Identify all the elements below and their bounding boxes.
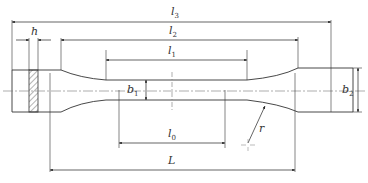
label-l0: l0 bbox=[168, 128, 176, 142]
label-r: r bbox=[259, 123, 264, 134]
label-l2: l2 bbox=[169, 25, 177, 39]
label-L: L bbox=[168, 155, 175, 166]
specimen-drawing bbox=[0, 0, 368, 183]
label-l1: l1 bbox=[168, 45, 176, 59]
label-l3: l3 bbox=[171, 6, 179, 20]
label-b1: b1 bbox=[127, 84, 139, 98]
specimen-outline bbox=[12, 68, 353, 112]
label-b2: b2 bbox=[342, 84, 354, 98]
label-h: h bbox=[31, 26, 38, 37]
